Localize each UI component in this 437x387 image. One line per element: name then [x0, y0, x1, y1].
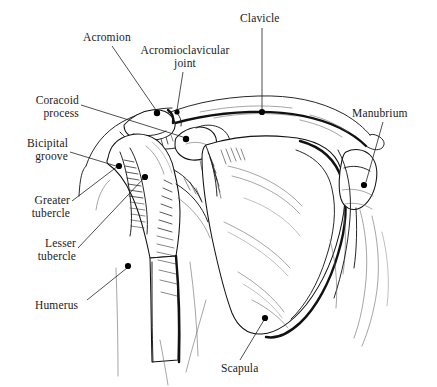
marker-dot-humerus: [125, 263, 131, 269]
marker-dot-greater-tubercle: [142, 174, 148, 180]
label-coracoid-process-line2: process: [0, 107, 79, 120]
label-humerus: Humerus: [35, 299, 78, 312]
leader-line-humerus: [87, 268, 127, 300]
label-clavicle: Clavicle: [240, 12, 280, 25]
label-greater-tubercle: Greater tubercle: [0, 194, 70, 220]
label-lesser-tubercle-line1: Lesser: [45, 237, 76, 249]
label-lesser-tubercle-line2: tubercle: [0, 250, 76, 263]
label-acromioclavicular-joint: Acromioclavicular joint: [137, 44, 233, 70]
marker-dot-coracoid-process: [183, 136, 189, 142]
label-humerus-line1: Humerus: [35, 299, 78, 311]
label-lesser-tubercle: Lesser tubercle: [0, 237, 76, 263]
scapula-bone: [202, 136, 345, 337]
label-scapula: Scapula: [221, 362, 258, 375]
marker-dot-bicipital-groove: [116, 163, 122, 169]
marker-dot-acromioclavicular-joint: [174, 109, 179, 114]
label-clavicle-line1: Clavicle: [240, 12, 280, 24]
marker-dot-acromion: [154, 110, 160, 116]
label-acromioclavicular-joint-line2: joint: [137, 57, 233, 70]
marker-dot-clavicle: [259, 109, 265, 115]
label-manubrium: Manubrium: [352, 107, 408, 120]
marker-dot-manubrium: [361, 182, 367, 188]
label-coracoid-process-line1: Coracoid: [36, 94, 79, 106]
label-acromion: Acromion: [83, 31, 131, 44]
label-coracoid-process: Coracoid process: [0, 94, 79, 120]
label-acromion-line1: Acromion: [83, 31, 131, 43]
label-bicipital-groove: Bicipital groove: [0, 137, 68, 163]
label-manubrium-line1: Manubrium: [352, 107, 408, 119]
label-bicipital-groove-line2: groove: [0, 150, 68, 163]
label-scapula-line1: Scapula: [221, 362, 258, 374]
label-greater-tubercle-line2: tubercle: [0, 207, 70, 220]
marker-dot-scapula: [262, 315, 268, 321]
anatomical-figure: Acromion Acromioclavicular joint Clavicl…: [0, 0, 437, 387]
label-greater-tubercle-line1: Greater: [34, 194, 70, 206]
leader-line-greater-tubercle: [72, 166, 118, 201]
label-acromioclavicular-joint-line1: Acromioclavicular: [141, 44, 230, 56]
label-bicipital-groove-line1: Bicipital: [27, 137, 68, 149]
leader-line-acromioclavicular-joint: [177, 72, 183, 110]
